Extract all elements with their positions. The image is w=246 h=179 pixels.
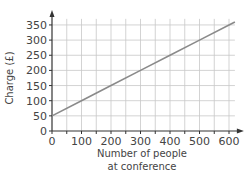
y-tick-label: 300 — [26, 34, 47, 47]
x-axis-arrow-icon — [237, 129, 244, 134]
line-chart: 050100150200250300350 010020030040050060… — [0, 0, 246, 179]
y-axis-ticks: 050100150200250300350 — [26, 19, 52, 138]
y-tick-label: 100 — [26, 95, 47, 108]
x-axis-label-line-1: Number of people — [97, 148, 187, 159]
x-tick-label: 100 — [71, 135, 92, 148]
y-tick-label: 0 — [40, 125, 47, 138]
y-tick-label: 150 — [26, 80, 47, 93]
x-tick-label: 400 — [160, 135, 181, 148]
y-axis-label: Charge (£) — [4, 51, 15, 104]
x-tick-label: 200 — [101, 135, 122, 148]
y-tick-label: 50 — [33, 110, 47, 123]
data-series — [52, 22, 235, 116]
x-axis-ticks: 0100200300400500600 — [49, 131, 240, 148]
axes — [50, 10, 244, 134]
series-line — [52, 22, 235, 116]
y-tick-label: 200 — [26, 64, 47, 77]
y-tick-label: 250 — [26, 49, 47, 62]
x-tick-label: 600 — [219, 135, 240, 148]
y-tick-label: 350 — [26, 19, 47, 32]
y-axis-arrow-icon — [50, 10, 55, 17]
x-tick-label: 500 — [189, 135, 210, 148]
x-tick-label: 300 — [130, 135, 151, 148]
x-axis-label-line-2: at conference — [108, 161, 177, 172]
x-tick-label: 0 — [49, 135, 56, 148]
